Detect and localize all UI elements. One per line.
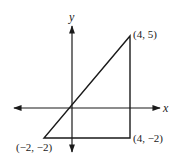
vertex-label-bottom-right: (4, −2) [133, 132, 163, 145]
y-axis-label: y [68, 10, 75, 24]
coordinate-diagram: y x (4, 5) (4, −2) (−2, −2) [0, 0, 179, 165]
triangle [44, 36, 130, 138]
vertex-label-top: (4, 5) [133, 28, 157, 41]
vertex-label-bottom-left: (−2, −2) [16, 141, 53, 154]
x-axis-label: x [162, 101, 169, 115]
